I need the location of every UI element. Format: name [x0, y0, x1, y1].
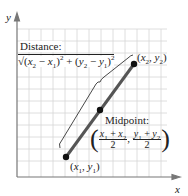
- midpoint-label: Midpoint:: [105, 115, 149, 126]
- y-axis-label: y: [6, 12, 11, 23]
- point-p1: [63, 154, 69, 160]
- axes: [15, 13, 181, 180]
- distance-label: Distance:: [20, 41, 62, 52]
- point-p1-label: (x1, y1): [70, 161, 100, 172]
- distance-formula: √(x2 − x1)2 + (y2 − y1)2: [18, 56, 114, 67]
- point-p2-label: (x2, y2): [137, 52, 167, 63]
- midpoint-formula: (x1 + x22, y1 + y22): [90, 126, 170, 152]
- x-axis-label: x: [175, 184, 180, 195]
- point-midpoint: [97, 107, 103, 113]
